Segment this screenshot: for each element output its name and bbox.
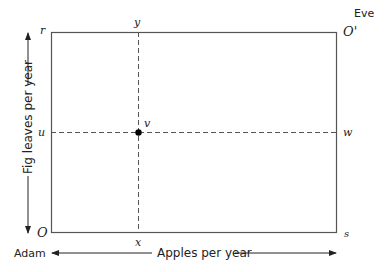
corner-label-bottom-right: s [344,228,349,239]
dashed-label-x: x [135,236,142,249]
vertical-axis-label: Fig leaves per year [21,60,35,174]
edgeworth-box-diagram: r O' O s Eve Adam y x u w v Apples per y… [0,0,386,272]
owner-label-adam: Adam [14,247,46,260]
point-label-v: v [144,117,151,130]
corner-label-top-right: O' [343,24,357,39]
allocation-point [135,129,141,135]
dashed-label-u: u [38,126,45,139]
horizontal-axis-label: Apples per year [157,246,252,260]
dashed-label-w: w [343,126,353,139]
corner-label-top-left: r [40,24,46,37]
owner-label-eve: Eve [354,7,374,20]
dashed-label-y: y [133,16,141,29]
corner-label-bottom-left: O [37,225,48,240]
